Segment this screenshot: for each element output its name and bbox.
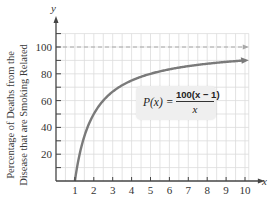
x-tick-label: 8	[204, 184, 210, 196]
x-tick-label: 3	[110, 184, 116, 196]
formula-numerator: 100(x − 1)	[176, 89, 214, 102]
x-tick-label: 1	[72, 184, 78, 196]
y-tick-label: 100	[36, 41, 53, 53]
y-tick-label: 80	[41, 68, 53, 80]
x-tick-label: 10	[240, 184, 252, 196]
y-tick-labels: 20406080100	[36, 41, 53, 160]
asymptote-arrowhead-icon	[243, 45, 249, 50]
x-tick-label: 2	[91, 184, 97, 196]
y-tick-label: 60	[41, 95, 53, 107]
y-tick-label: 20	[41, 148, 53, 160]
formula-denominator: x	[176, 103, 214, 115]
x-tick-label: 7	[186, 184, 192, 196]
x-tick-label: 4	[129, 184, 135, 196]
y-axis-description-line1: Percentage of Deaths from the	[4, 30, 17, 198]
y-axis-arrowhead-icon	[54, 16, 59, 23]
x-axis-label: x	[261, 175, 267, 187]
y-tick-label: 40	[41, 121, 53, 133]
x-tick-label: 9	[223, 184, 229, 196]
y-axis-description: Percentage of Deaths from the Disease th…	[4, 30, 38, 198]
x-tick-label: 6	[167, 184, 173, 196]
y-axis-description-line2: Disease that are Smoking Related	[17, 30, 30, 198]
formula-lhs: P(x) =	[143, 96, 173, 108]
x-tick-labels: 12345678910	[72, 184, 251, 196]
x-tick-label: 5	[148, 184, 154, 196]
formula-annotation-box: P(x) = 100(x − 1) x	[136, 86, 216, 120]
y-axis-label: y	[50, 2, 56, 14]
formula-fraction: 100(x − 1) x	[176, 89, 214, 115]
